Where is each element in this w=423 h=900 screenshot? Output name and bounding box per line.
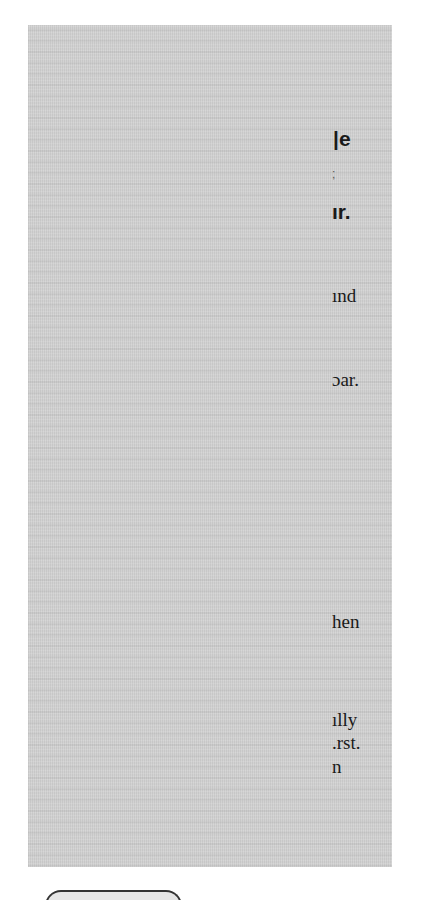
body-fragment-3: hen bbox=[332, 612, 359, 631]
scanned-page: |e ; ır. ınd ɔar. hen ılly .rst. n bbox=[0, 0, 423, 900]
body-fragment-5: .rst. bbox=[332, 733, 361, 752]
heading-fragment-1: |e bbox=[333, 128, 351, 149]
body-fragment-1: ınd bbox=[332, 286, 356, 305]
heading-fragment-3: ır. bbox=[332, 201, 351, 222]
body-fragment-2: ɔar. bbox=[332, 370, 359, 389]
heading-fragment-2: ; bbox=[332, 168, 335, 180]
body-fragment-6: n bbox=[332, 757, 342, 776]
body-fragment-4: ılly bbox=[332, 710, 357, 729]
bottom-button[interactable] bbox=[45, 890, 182, 900]
